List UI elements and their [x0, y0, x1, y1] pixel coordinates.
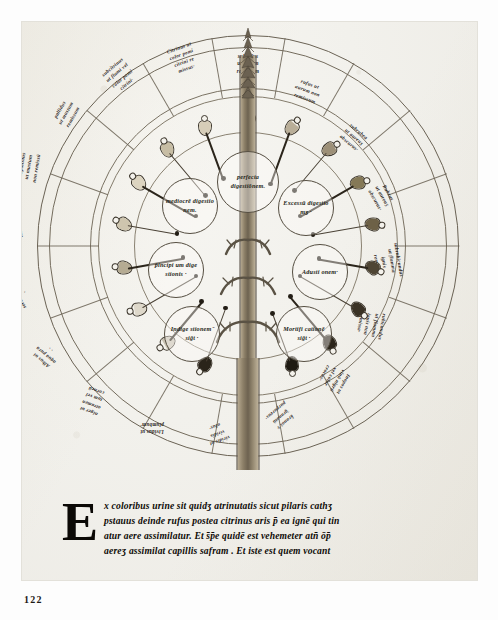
manuscript-plate: subrufusut aurumremissumrufus utaurum no…: [22, 22, 477, 580]
digestion-stage-node: Excessū digestio mʒ ·: [278, 180, 334, 236]
digestion-stage-node: perfecta digestiōnem.: [217, 151, 279, 213]
urine-wheel: subrufusut aurumremissumrufus utaurum no…: [36, 34, 460, 458]
drop-cap-initial: E: [62, 500, 98, 544]
paragraph-line: pstauus deinde rufus postea citrinus ari…: [70, 513, 460, 528]
flask-neck: [363, 177, 371, 185]
urine-flask-icon: [362, 213, 387, 234]
flask-neck: [201, 115, 208, 122]
flask-neck: [378, 221, 386, 229]
digestion-stage-label: perfecta digestiōnem.: [218, 173, 278, 191]
digestion-stage-label: Mortifi cationē siḡt ·: [277, 325, 331, 343]
digestion-stage-node: Indige stionem ̄ siḡt ·: [164, 306, 220, 362]
digestion-stage-node: mediocrē digestio nem.: [162, 178, 218, 234]
digestion-stage-label: p̄incipi um dige stionis ·: [149, 261, 203, 279]
digestion-stage-label: Adusti onem·: [299, 268, 341, 277]
tree-illustration: [218, 28, 278, 474]
tree-crown-icon: [231, 28, 265, 100]
paragraph-line: x coloribus urine sit quidʒ atrinutatis …: [64, 498, 460, 513]
digestion-stage-node: p̄incipi um dige stionis ·: [148, 242, 204, 298]
folio-page-number: 122: [24, 594, 43, 605]
page-root: subrufusut aurumremissumrufus utaurum no…: [0, 0, 498, 620]
paragraph-line: atur aere assimilatur. Et s̄p̄e quidē e…: [74, 528, 460, 543]
digestion-stage-label: Indige stionem ̄ siḡt ·: [165, 325, 219, 343]
wheel-sector-label-line: Lividus ut: [104, 428, 200, 435]
latin-paragraph: E x coloribus urine sit quidʒ atrinutati…: [62, 498, 460, 558]
digestion-stage-node: Adusti onem·: [292, 244, 348, 300]
digestion-stage-label: mediocrē digestio nem.: [163, 197, 217, 215]
digestion-stage-node: Mortifi cationē siḡt ·: [276, 306, 332, 362]
tree-branches-icon: [188, 218, 308, 398]
digestion-stage-label: Excessū digestio mʒ ·: [279, 199, 333, 217]
